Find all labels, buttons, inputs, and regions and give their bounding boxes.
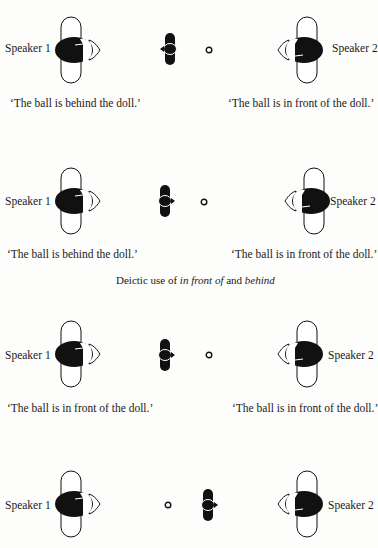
speaker-2-label: Speaker 2 [332,43,378,55]
speaker-2-figure-icon [276,16,326,84]
caption-speaker-1: ‘The ball is behind the doll.’ [10,98,141,110]
speaker-2-label: Speaker 2 [328,500,374,512]
caption-speaker-2: ‘The ball is in front of the doll.’ [232,403,378,415]
caption-speaker-2: ‘The ball is in front of the doll.’ [231,249,377,261]
heading-middle: and [223,274,244,286]
speaker-1-label: Speaker 1 [5,43,51,55]
caption-speaker-2: ‘The ball is in front of the doll.’ [228,98,374,110]
ball-icon [200,198,208,206]
speaker-1-figure-icon [52,470,102,538]
caption-speaker-1: ‘The ball is in front of the doll.’ [7,403,153,415]
doll-icon [160,33,178,65]
doll-icon [157,185,177,217]
caption-speaker-1: ‘The ball is behind the doll.’ [7,249,138,261]
figure-heading: Deictic use of in front of and behind [116,275,275,286]
speaker-2-figure-icon [283,167,333,235]
speaker-1-figure-icon [52,16,102,84]
speaker-2-figure-icon [276,320,326,388]
ball-icon [205,46,213,54]
heading-term-behind: behind [245,274,275,286]
speaker-1-figure-icon [52,320,102,388]
speaker-1-label: Speaker 1 [5,500,51,512]
ball-icon [164,501,172,509]
heading-term-in-front-of: in front of [180,274,224,286]
speaker-2-label: Speaker 2 [328,350,374,362]
doll-icon [200,489,220,521]
doll-icon [157,339,177,371]
speaker-1-label: Speaker 1 [5,350,51,362]
speaker-2-figure-icon [276,470,326,538]
heading-prefix: Deictic use of [116,274,180,286]
speaker-1-label: Speaker 1 [5,196,51,208]
speaker-1-figure-icon [52,167,102,235]
ball-icon [205,351,213,359]
speaker-2-label: Speaker 2 [330,196,376,208]
